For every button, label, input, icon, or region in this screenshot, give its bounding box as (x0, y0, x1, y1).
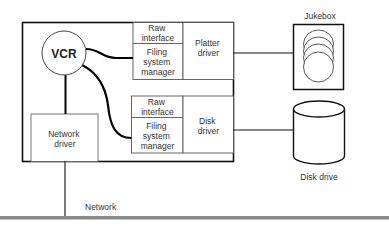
vcr-node: VCR (42, 31, 86, 75)
vcr-label: VCR (51, 47, 77, 61)
network-bus (0, 216, 389, 220)
disk-driver-label: Disk driver (198, 116, 219, 136)
vcr-to-platter-fsm-connector (86, 49, 133, 58)
platter-driver-label: Platter driver (195, 38, 222, 58)
disk-cylinder-top (294, 101, 345, 117)
jukebox: Jukebox (294, 11, 344, 90)
disk-drive: Disk drive (294, 101, 345, 182)
network-driver: Network driver (31, 114, 98, 162)
disc-stack-icon (304, 30, 334, 82)
jukebox-label: Jukebox (304, 11, 336, 21)
platter-module: Raw interface Filing system manager Plat… (133, 23, 234, 80)
network-label: Network (85, 202, 117, 212)
architecture-diagram: Raw interface Filing system manager Plat… (0, 0, 389, 230)
disk-drive-label: Disk drive (300, 172, 338, 182)
disk-module: Raw interface Filing system manager Disk… (132, 96, 234, 153)
